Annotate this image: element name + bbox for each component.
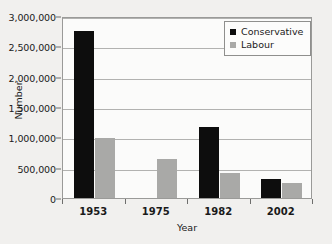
bar-labour-1953 bbox=[95, 138, 115, 198]
chart-screenshot: Number 0500,0001,000,0001,500,0002,000,0… bbox=[0, 0, 332, 244]
y-axis-tick-label: 1,000,000 bbox=[9, 133, 56, 144]
x-axis-tick-label: 2002 bbox=[267, 206, 295, 217]
bar-labour-1982 bbox=[220, 173, 240, 198]
x-axis-tick-mark bbox=[125, 199, 126, 204]
x-axis-tick-mark bbox=[62, 199, 63, 204]
x-axis-tick-label: 1982 bbox=[204, 206, 232, 217]
y-axis-tick-label: 500,000 bbox=[17, 163, 56, 174]
y-axis-tick-mark bbox=[56, 17, 61, 18]
y-axis-tick-mark bbox=[56, 77, 61, 78]
legend-item-label: Labour bbox=[241, 39, 274, 50]
gridline bbox=[63, 109, 311, 110]
legend-swatch-icon bbox=[230, 29, 236, 35]
x-axis-title: Year bbox=[62, 222, 312, 233]
y-axis-tick-mark bbox=[56, 199, 61, 200]
y-axis-tick-mark bbox=[56, 138, 61, 139]
gridline bbox=[63, 79, 311, 80]
y-axis-tick-label: 2,000,000 bbox=[9, 72, 56, 83]
bar-conservative-2002 bbox=[261, 179, 281, 198]
x-axis-tick-mark bbox=[312, 199, 313, 204]
bar-labour-2002 bbox=[282, 183, 302, 198]
y-axis-tick-label: 2,500,000 bbox=[9, 42, 56, 53]
y-axis-tick-mark bbox=[56, 47, 61, 48]
bar-conservative-1982 bbox=[199, 127, 219, 198]
y-axis-tick-mark bbox=[56, 168, 61, 169]
legend-swatch-icon bbox=[230, 42, 236, 48]
x-axis-tick-mark bbox=[187, 199, 188, 204]
y-axis-tick-label: 3,000,000 bbox=[9, 12, 56, 23]
y-axis-tick-mark bbox=[56, 108, 61, 109]
y-axis-tick-labels: 0500,0001,000,0001,500,0002,000,0002,500… bbox=[0, 17, 56, 199]
chart-legend: Conservative Labour bbox=[224, 21, 311, 56]
x-axis-tick-mark bbox=[250, 199, 251, 204]
bar-conservative-1953 bbox=[74, 31, 94, 198]
legend-item-labour: Labour bbox=[230, 38, 303, 51]
x-axis-tick-label: 1953 bbox=[79, 206, 107, 217]
x-axis-tick-label: 1975 bbox=[142, 206, 170, 217]
y-axis-tick-label: 1,500,000 bbox=[9, 103, 56, 114]
gridline bbox=[63, 18, 311, 19]
legend-item-conservative: Conservative bbox=[230, 25, 303, 38]
legend-item-label: Conservative bbox=[241, 26, 303, 37]
bar-labour-1975 bbox=[157, 159, 177, 198]
